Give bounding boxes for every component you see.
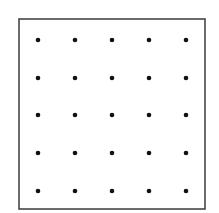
grid-dot-r5-c2: [73, 189, 78, 194]
grid-dot-r3-c4: [147, 113, 152, 118]
grid-dot-r3-c5: [184, 113, 189, 118]
grid-dot-r4-c4: [147, 151, 152, 156]
grid-dot-r5-c4: [147, 189, 152, 194]
grid-dot-r2-c2: [73, 76, 78, 81]
grid-dot-r3-c1: [36, 113, 41, 118]
grid-dot-r2-c3: [110, 76, 115, 81]
grid-dot-r1-c4: [147, 38, 152, 43]
grid-dot-r2-c1: [36, 76, 41, 81]
grid-dot-r2-c4: [147, 76, 152, 81]
grid-dot-r4-c3: [110, 151, 115, 156]
grid-dot-r3-c2: [73, 113, 78, 118]
grid-dot-r5-c5: [184, 189, 189, 194]
grid-dot-r1-c3: [110, 38, 115, 43]
grid-dot-r1-c2: [73, 38, 78, 43]
grid-dot-r3-c3: [110, 113, 115, 118]
grid-dot-r5-c1: [36, 189, 41, 194]
grid-dot-r4-c2: [73, 151, 78, 156]
grid-dot-r4-c1: [36, 151, 41, 156]
grid-dot-r4-c5: [184, 151, 189, 156]
grid-dot-r1-c5: [184, 38, 189, 43]
dot-grid-diagram: [0, 0, 219, 213]
grid-dot-r1-c1: [36, 38, 41, 43]
grid-dot-r5-c3: [110, 189, 115, 194]
grid-dot-r2-c5: [184, 76, 189, 81]
dot-grid: [36, 38, 189, 194]
